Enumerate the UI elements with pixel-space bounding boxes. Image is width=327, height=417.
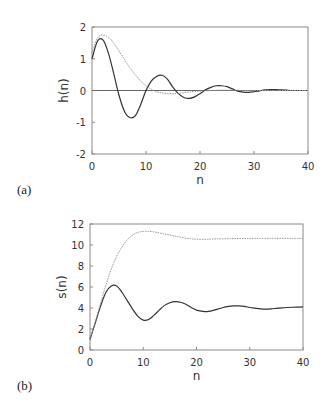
y-tick-label: 12 (71, 219, 84, 230)
x-axis-label: n (196, 173, 204, 187)
x-tick-label: 0 (89, 161, 95, 172)
x-tick-label: 40 (302, 161, 315, 172)
plot-frame (90, 224, 303, 350)
x-tick-label: 10 (140, 161, 153, 172)
x-tick-label: 30 (248, 161, 261, 172)
y-tick-label: 4 (78, 303, 84, 314)
y-tick-label: 2 (78, 324, 84, 335)
x-tick-label: 10 (137, 357, 150, 368)
y-tick-label: 6 (78, 282, 84, 293)
y-tick-label: 8 (78, 261, 84, 272)
panel-label: (b) (17, 378, 32, 393)
x-tick-label: 30 (243, 357, 256, 368)
chart-panel-a: 010203040-2-1012nh(n)(a) (17, 22, 314, 197)
y-tick-label: 0 (78, 345, 84, 356)
y-tick-label: -1 (76, 117, 86, 128)
x-tick-label: 20 (190, 357, 203, 368)
x-axis-label: n (193, 369, 201, 383)
y-tick-label: 10 (71, 240, 84, 251)
series-dotted-line (90, 231, 303, 339)
series-solid-line (92, 39, 308, 118)
y-axis-label: s(n) (55, 275, 69, 298)
panel-label: (a) (17, 182, 31, 197)
x-tick-label: 0 (87, 357, 93, 368)
figure: 010203040-2-1012nh(n)(a) 010203040024681… (0, 0, 327, 417)
y-axis-label: h(n) (57, 78, 71, 103)
y-tick-label: 1 (80, 54, 86, 65)
x-tick-label: 40 (297, 357, 310, 368)
series-solid-line (90, 285, 303, 339)
series-dotted-line (92, 35, 308, 94)
x-tick-label: 20 (194, 161, 207, 172)
y-tick-label: -2 (76, 149, 86, 160)
y-tick-label: 2 (80, 22, 86, 33)
y-tick-label: 0 (80, 86, 86, 97)
chart-panel-b: 010203040024681012ns(n)(b) (17, 219, 309, 393)
